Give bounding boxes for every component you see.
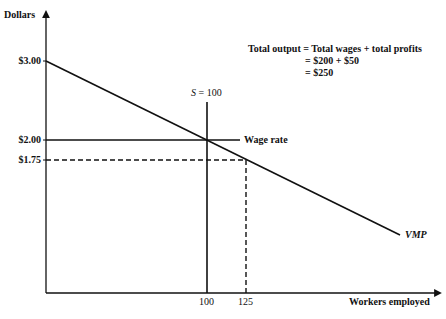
y-axis-label: Dollars (4, 10, 35, 20)
y-tick-175: $1.75 (0, 155, 41, 165)
x-tick-100: 100 (199, 297, 214, 307)
x-axis-label: Workers employed (349, 297, 430, 307)
x-tick-125: 125 (238, 297, 253, 307)
y-tick-300: $3.00 (0, 56, 41, 66)
vmp-line (46, 61, 400, 235)
supply-label: S = 100 (191, 88, 222, 98)
vmp-label: VMP (405, 230, 427, 240)
equation-line-1: Total output = Total wages + total profi… (248, 44, 422, 54)
equation-line-3: = $250 (305, 68, 333, 78)
supply-value: = 100 (199, 87, 222, 98)
equation-line-2: = $200 + $50 (305, 56, 359, 66)
wage-rate-label: Wage rate (244, 135, 288, 145)
y-tick-200: $2.00 (0, 135, 41, 145)
